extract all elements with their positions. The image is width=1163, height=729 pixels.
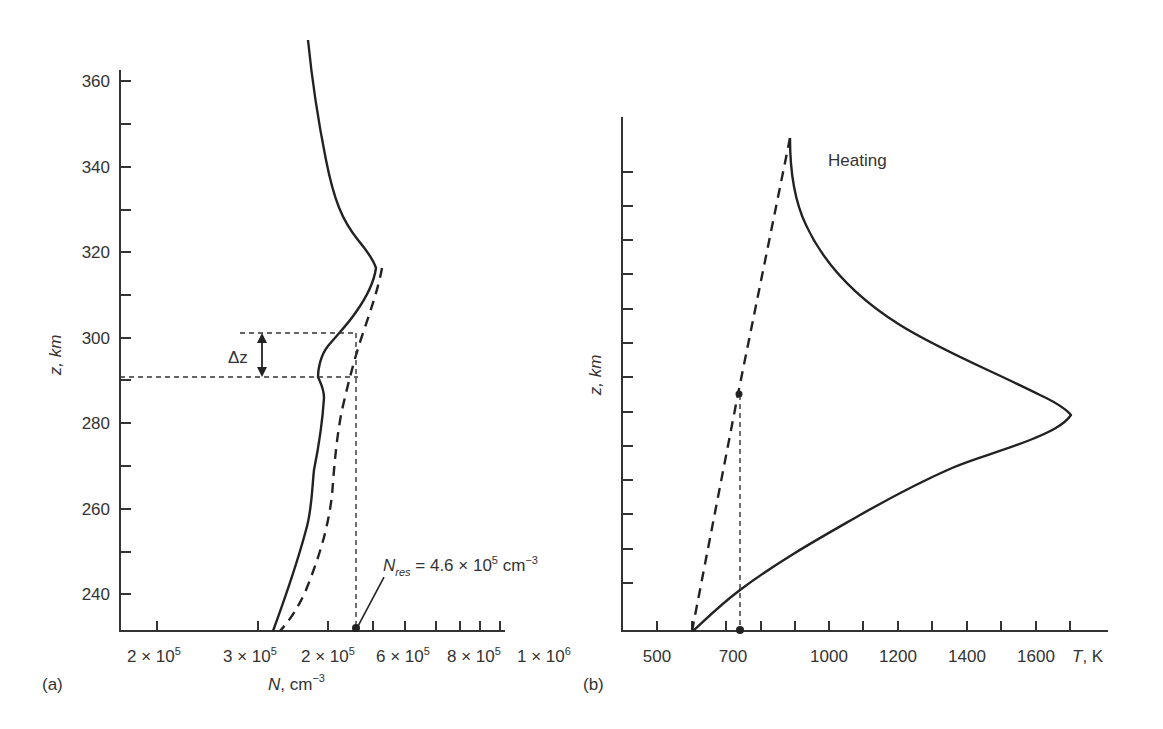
figure: 360 340 320 300 280 260 240 z, km 2 × 10…	[0, 0, 1163, 729]
x-tick-label: 700	[719, 647, 747, 666]
panel-a-x-tick-labels: 2 × 105 3 × 105 2 × 105 6 × 105 8 × 105 …	[127, 645, 571, 666]
panel-a-y-axis-label: z, km	[46, 335, 65, 377]
x-tick-label: 2 × 105	[301, 645, 355, 666]
panel-b-x-ticks	[657, 621, 1070, 631]
x-tick-label: 3 × 105	[223, 645, 277, 666]
x-tick-label: 1400	[948, 647, 986, 666]
x-tick-label: 1200	[879, 647, 917, 666]
panel-a-solid-profile	[273, 40, 376, 631]
panel-b-x-tick-labels: 500 700 1000 1200 1400 1600	[643, 647, 1055, 666]
panel-b-axis-marker	[736, 626, 744, 634]
panel-a-x-ticks	[157, 621, 500, 631]
panel-a-dashed-profile	[280, 268, 382, 631]
panel-b-label: (b)	[583, 675, 604, 694]
y-tick-label: 360	[82, 72, 110, 91]
panel-b-y-axis-label: z, km	[586, 355, 605, 397]
heating-label: Heating	[828, 151, 887, 170]
nres-annotation: Nres = 4.6 × 105 cm−3	[383, 554, 538, 578]
y-tick-label: 320	[82, 243, 110, 262]
y-tick-label: 280	[82, 414, 110, 433]
x-tick-label: 500	[643, 647, 671, 666]
panel-a-y-tick-labels: 360 340 320 300 280 260 240	[82, 72, 110, 604]
x-tick-label: 1 × 106	[517, 645, 571, 666]
y-tick-label: 300	[82, 329, 110, 348]
nres-leader-line	[358, 577, 384, 626]
panel-a: 360 340 320 300 280 260 240 z, km 2 × 10…	[42, 40, 571, 694]
y-tick-label: 340	[82, 158, 110, 177]
panel-b-x-axis-label: T, K	[1072, 647, 1104, 666]
panel-a-x-axis-label: N, cm−3	[268, 672, 325, 694]
x-tick-label: 1600	[1017, 647, 1055, 666]
x-tick-label: 8 × 105	[447, 645, 501, 666]
delta-z-label: Δz	[228, 348, 248, 367]
x-tick-label: 6 × 105	[376, 645, 430, 666]
panel-a-axes	[120, 70, 505, 631]
panel-b-y-ticks	[622, 172, 633, 583]
panel-a-label: (a)	[42, 675, 63, 694]
panel-b: 500 700 1000 1200 1400 1600 T, K z, km (…	[583, 117, 1108, 694]
y-tick-label: 260	[82, 500, 110, 519]
panel-b-reference-point	[736, 391, 743, 398]
panel-b-dashed-curve	[692, 138, 790, 631]
panel-b-axes	[622, 117, 1108, 631]
panel-a-y-ticks	[120, 81, 131, 594]
x-tick-label: 1000	[810, 647, 848, 666]
panel-b-heating-curve	[693, 138, 1071, 631]
x-tick-label: 2 × 105	[127, 645, 181, 666]
y-tick-label: 240	[82, 585, 110, 604]
delta-z-arrow	[257, 333, 267, 377]
